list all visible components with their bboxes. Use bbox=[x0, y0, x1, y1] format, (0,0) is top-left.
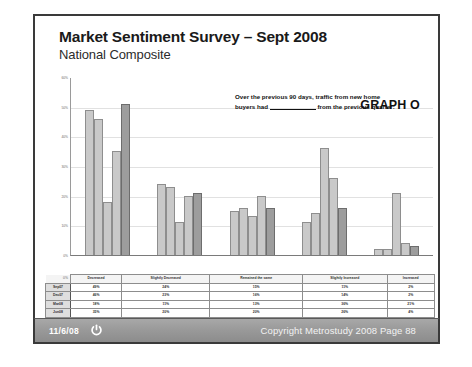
bar bbox=[410, 246, 419, 255]
table-cell: 49% bbox=[71, 283, 122, 292]
y-tick-label: 60% bbox=[61, 76, 68, 80]
bar bbox=[257, 196, 266, 255]
slide-footer: 11/6/08 Copyright Metrostudy 2008 Page 8… bbox=[33, 318, 440, 344]
table-row-label: Jun08 bbox=[46, 309, 71, 318]
table-head: 0%DecreasedSlightly DecreasedRemained th… bbox=[46, 275, 435, 284]
bar bbox=[320, 148, 329, 255]
bar bbox=[230, 211, 239, 256]
table-row: Dec0746%23%16%14%2% bbox=[46, 292, 435, 301]
table-cell: 26% bbox=[302, 309, 387, 318]
table-row: Jun0835%20%20%26%4% bbox=[46, 309, 435, 318]
bar bbox=[338, 208, 347, 255]
bar bbox=[383, 249, 392, 255]
table-column-header: Slightly Increased bbox=[302, 275, 387, 284]
bar bbox=[175, 222, 184, 255]
table-cell: 24% bbox=[122, 283, 210, 292]
bar bbox=[112, 151, 121, 255]
table-cell: 4% bbox=[387, 309, 434, 318]
table-cell: 11% bbox=[122, 300, 210, 309]
fill-in-blank bbox=[270, 109, 316, 110]
y-axis: 60%50%40%30%20%10%0% bbox=[45, 78, 69, 256]
y-tick-label: 30% bbox=[61, 165, 68, 169]
bar bbox=[121, 104, 130, 255]
bar bbox=[94, 119, 103, 255]
bar-group bbox=[71, 78, 143, 255]
y-tick-label: 20% bbox=[61, 195, 68, 199]
title-block: Market Sentiment Survey – Sept 2008 Nati… bbox=[59, 28, 419, 62]
callout-line-1: Over the previous 90 days, traffic from … bbox=[235, 93, 380, 100]
bar bbox=[392, 193, 401, 255]
bar bbox=[103, 202, 112, 255]
footer-copyright: Copyright Metrostudy 2008 Page 88 bbox=[261, 325, 416, 336]
table-row-label: Dec07 bbox=[46, 292, 71, 301]
page-title: Market Sentiment Survey – Sept 2008 bbox=[59, 28, 419, 46]
y-tick-label: 40% bbox=[61, 135, 68, 139]
table-header-row: 0%DecreasedSlightly DecreasedRemained th… bbox=[46, 275, 435, 284]
power-icon[interactable] bbox=[90, 324, 103, 337]
bar bbox=[401, 243, 410, 255]
table-column-header: Remained the same bbox=[210, 275, 303, 284]
bar bbox=[239, 208, 248, 255]
table-cell: 20% bbox=[122, 309, 210, 318]
table-column-header: Slightly Decreased bbox=[122, 275, 210, 284]
table-cell: 16% bbox=[210, 292, 303, 301]
bar bbox=[266, 208, 275, 255]
table-cell: 35% bbox=[71, 309, 122, 318]
bar bbox=[302, 222, 311, 255]
table-cell: 23% bbox=[122, 292, 210, 301]
table-column-header: Increased bbox=[387, 275, 434, 284]
table-cell: 14% bbox=[302, 292, 387, 301]
table-cell: 46% bbox=[71, 292, 122, 301]
table-column-header: Decreased bbox=[71, 275, 122, 284]
bar bbox=[248, 216, 257, 255]
presentation-slide: Market Sentiment Survey – Sept 2008 Nati… bbox=[33, 14, 440, 344]
table-row: Sep0749%24%15%11%2% bbox=[46, 283, 435, 292]
table-cell: 36% bbox=[302, 300, 387, 309]
table-cell: 11% bbox=[302, 283, 387, 292]
bar bbox=[157, 184, 166, 255]
bar bbox=[329, 178, 338, 255]
bar bbox=[85, 110, 94, 255]
table-cell: 18% bbox=[71, 300, 122, 309]
y-tick-label: 0% bbox=[63, 254, 68, 258]
table-cell: 21% bbox=[387, 300, 434, 309]
bar bbox=[193, 193, 202, 255]
table-row-label: Sep07 bbox=[46, 283, 71, 292]
y-tick-label: 10% bbox=[61, 224, 68, 228]
y-tick-label: 50% bbox=[61, 106, 68, 110]
table-corner-label: 0% bbox=[46, 275, 71, 284]
bar bbox=[184, 196, 193, 255]
bar bbox=[374, 249, 383, 255]
bar bbox=[311, 213, 320, 255]
graph-identifier: GRAPH O bbox=[360, 98, 420, 112]
table-cell: 20% bbox=[210, 309, 303, 318]
bar bbox=[166, 187, 175, 255]
page-subtitle: National Composite bbox=[59, 47, 419, 62]
table-row-label: Mar08 bbox=[46, 300, 71, 309]
table-cell: 13% bbox=[210, 300, 303, 309]
callout-line-2a: buyers had bbox=[235, 103, 268, 110]
table-row: Mar0818%11%13%36%21% bbox=[46, 300, 435, 309]
bar-group bbox=[143, 78, 215, 255]
table-cell: 2% bbox=[387, 283, 434, 292]
footer-date: 11/6/08 bbox=[49, 326, 79, 336]
table-cell: 15% bbox=[210, 283, 303, 292]
table-cell: 2% bbox=[387, 292, 434, 301]
